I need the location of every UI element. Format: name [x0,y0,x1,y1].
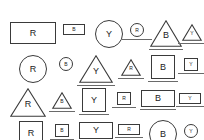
rect-shape: R [118,124,140,135]
shape-letter: Y [189,129,192,134]
grid-cell: R [110,92,138,108]
shape-wrapper: Y [184,58,198,71]
shape-wrapper: R [19,121,43,140]
circle-shape: B [59,57,73,71]
shape-letter: Y [93,126,99,135]
triangle-shape: Y [79,55,113,83]
shape-letter: R [25,100,32,109]
circle-shape: R [19,55,47,83]
triangle-shape: R [121,59,141,76]
shape-wrapper: B [149,120,177,140]
shape-wrapper: B [55,124,69,137]
grid-cell: R [17,55,49,83]
rect-shape: Y [179,93,201,104]
grid-cell: R [8,22,58,44]
grid-cell: Y [174,93,204,107]
shape-letter: R [135,28,139,33]
shape-letter: Y [91,96,97,105]
grid-cell: B [61,24,87,35]
shape-letter: R [30,65,37,74]
grid-cell: B [57,57,75,71]
rect-shape: Y [79,122,113,139]
square-shape: Y [184,58,198,71]
square-shape: R [117,92,131,105]
square-shape: Y [82,88,106,112]
grid-cell: B [47,92,77,112]
shape-letter: R [122,96,126,101]
square-shape: R [19,121,43,140]
rect-shape: B [63,24,85,35]
shape-wrapper: Y [79,55,113,83]
shape-wrapper: Y [95,20,123,48]
shape-letter: B [160,63,166,72]
shape-letter: B [163,31,169,40]
shape-letter: B [64,62,67,67]
shape-wrapper: Y [82,88,106,112]
grid-cell: Y [75,55,117,86]
shape-letter: B [72,27,75,32]
shape-underline [50,139,74,140]
shape-wrapper: Y [79,122,113,139]
shape-letter: Y [93,67,99,76]
shape-underline [115,137,143,138]
circle-shape: R [130,23,144,37]
shape-letter: Y [106,30,112,39]
shape-underline [178,73,204,74]
shape-letter: R [30,29,37,38]
circle-shape: Y [95,20,123,48]
shape-wrapper: Y [179,93,201,104]
shape-grid: RBYRBYRBYRBYRBYRBYRBYRBY [0,0,204,140]
grid-cell: Y [176,24,204,44]
grid-cell: Y [77,88,111,115]
shape-underline [148,81,178,82]
shape-letter: B [155,94,161,103]
shape-wrapper: B [52,92,72,109]
shape-underline [178,43,204,44]
shape-letter: B [60,128,63,133]
grid-cell: Y [182,124,200,138]
grid-cell: R [8,88,48,117]
shape-underline [112,107,136,108]
shape-underline [140,109,176,110]
shape-wrapper: Y [184,124,198,138]
grid-cell: Y [75,122,117,140]
shape-underline [176,106,204,107]
shape-letter: Y [188,96,191,101]
shape-wrapper: Y [182,24,202,41]
shape-wrapper: R [10,22,56,44]
shape-letter: R [127,127,131,132]
grid-cell: R [14,121,48,140]
square-shape: B [55,124,69,137]
grid-cell: B [48,124,76,140]
shape-underline [77,85,115,86]
square-shape: B [151,55,175,79]
shape-letter: B [60,99,63,104]
grid-cell: B [146,55,180,82]
shape-wrapper: R [19,55,47,83]
shape-letter: B [160,130,166,139]
shape-underline [49,111,75,112]
grid-cell: B [147,120,179,140]
triangle-shape: B [52,92,72,109]
rect-shape: R [10,22,56,44]
shape-wrapper: R [118,124,140,135]
shape-wrapper: R [121,59,141,76]
shape-wrapper: R [130,23,144,37]
circle-shape: B [149,120,177,140]
shape-letter: R [28,129,35,138]
shape-wrapper: B [63,24,85,35]
shape-wrapper: B [151,55,175,79]
grid-cell: R [113,124,145,138]
shape-underline [118,78,144,79]
shape-wrapper: R [10,88,46,117]
shape-underline [149,49,183,50]
shape-wrapper: B [141,90,175,107]
grid-cell: B [138,90,178,110]
shape-underline [79,114,109,115]
shape-wrapper: R [117,92,131,105]
grid-cell: Y [176,58,204,74]
shape-letter: Y [190,31,193,36]
shape-letter: R [129,66,133,71]
grid-cell: R [116,59,146,79]
shape-wrapper: B [59,57,73,71]
